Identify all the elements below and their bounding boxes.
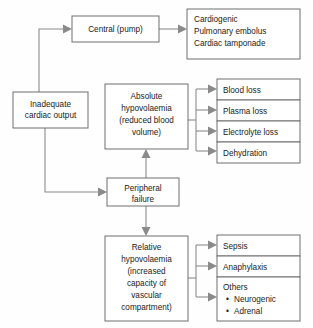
flowchart-diagram: Inadequate cardiac output Central (pump)… <box>0 0 313 328</box>
node-central-pump[interactable]: Central (pump) <box>72 16 159 42</box>
node-relative-hypovolaemia[interactable]: Relative hypovolaemia (increased capacit… <box>105 236 188 321</box>
edge-peripheral-to-absolute <box>142 149 151 178</box>
edge-central-to-cardiac-causes <box>159 25 187 34</box>
absolute-line-4: volume) <box>132 128 161 137</box>
relative-line-1: Relative <box>132 243 162 252</box>
node-dehydration[interactable]: Dehydration <box>217 142 300 163</box>
others-bullet-glyph-2: • <box>226 307 229 316</box>
peripheral-line-2: failure <box>132 195 155 204</box>
node-cardiac-causes[interactable]: Cardiogenic Pulmonary embolus Cardiac ta… <box>187 9 300 59</box>
node-plasma-loss[interactable]: Plasma loss <box>217 100 300 121</box>
node-others[interactable]: Others • Neurogenic • Adrenal <box>217 277 300 321</box>
edge-relative-to-causes <box>188 241 217 302</box>
cardiac-causes-line-1: Cardiogenic <box>194 15 238 24</box>
cardiac-causes-line-3: Cardiac tamponade <box>194 39 266 48</box>
node-blood-loss[interactable]: Blood loss <box>217 79 300 100</box>
blood-loss-label: Blood loss <box>223 86 261 95</box>
relative-line-5: vascular <box>131 291 162 300</box>
electrolyte-loss-label: Electrolyte loss <box>223 128 278 137</box>
dehydration-label: Dehydration <box>223 149 268 158</box>
node-absolute-hypovolaemia[interactable]: Absolute hypovolaemia (reduced blood vol… <box>105 84 188 149</box>
anaphylaxis-label: Anaphylaxis <box>223 263 267 272</box>
inadequate-line-1: Inadequate <box>30 100 71 109</box>
peripheral-line-1: Peripheral <box>124 184 162 193</box>
relative-line-6: compartment) <box>121 303 172 312</box>
others-label: Others <box>223 283 248 292</box>
relative-line-4: capacity of <box>127 279 167 288</box>
others-bullet-glyph-1: • <box>226 295 229 304</box>
relative-line-2: hypovolaemia <box>121 255 172 264</box>
node-sepsis[interactable]: Sepsis <box>217 235 300 256</box>
absolute-line-3: (reduced blood <box>119 116 174 125</box>
node-electrolyte-loss[interactable]: Electrolyte loss <box>217 121 300 142</box>
sepsis-label: Sepsis <box>223 242 248 251</box>
central-pump-line-1: Central (pump) <box>88 25 143 34</box>
edge-absolute-to-causes <box>188 85 217 156</box>
edge-inadequate-to-peripheral <box>13 119 107 197</box>
node-inadequate-cardiac-output[interactable]: Inadequate cardiac output <box>13 92 88 128</box>
inadequate-line-2: cardiac output <box>25 111 77 120</box>
cardiac-causes-line-2: Pulmonary embolus <box>194 27 266 36</box>
node-peripheral-failure[interactable]: Peripheral failure <box>107 178 179 206</box>
relative-line-3: (increased <box>127 267 166 276</box>
node-anaphylaxis[interactable]: Anaphylaxis <box>217 256 300 277</box>
others-bullet-1: Neurogenic <box>234 295 276 304</box>
flowchart-canvas: Inadequate cardiac output Central (pump)… <box>0 0 313 328</box>
absolute-line-2: hypovolaemia <box>121 104 172 113</box>
plasma-loss-label: Plasma loss <box>223 107 267 116</box>
edge-peripheral-to-relative <box>142 206 151 236</box>
absolute-line-1: Absolute <box>131 92 163 101</box>
others-bullet-2: Adrenal <box>234 307 262 316</box>
edge-inadequate-to-central <box>13 25 72 102</box>
